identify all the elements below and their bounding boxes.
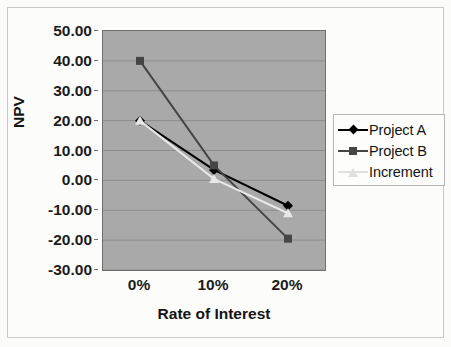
legend-label: Project B (369, 143, 427, 159)
y-axis-tick-label: 30.00 (53, 82, 92, 100)
x-axis-title: Rate of Interest (102, 305, 326, 323)
y-axis-tick-mark (94, 239, 98, 240)
square-icon (349, 147, 357, 155)
y-axis-tick-mark (94, 150, 98, 151)
data-point-triangle (283, 208, 293, 217)
y-axis-tick-mark (94, 90, 98, 91)
triangle-icon (348, 168, 358, 177)
plot-svg (103, 31, 325, 270)
y-axis-tick-label: 0.00 (62, 171, 92, 189)
x-axis-tick-label: 10% (197, 276, 228, 294)
y-axis-tick-label: 50.00 (53, 22, 92, 40)
chart-legend: Project AProject BIncrement (333, 114, 445, 186)
diamond-icon (349, 124, 359, 134)
data-point-square (284, 235, 292, 243)
y-axis-tick-labels: 50.0040.0030.0020.0010.000.00-10.00-20.0… (4, 30, 98, 271)
legend-key (337, 165, 369, 179)
legend-label: Project A (369, 122, 426, 138)
legend-label: Increment (369, 164, 433, 180)
legend-entry-increment[interactable]: Increment (337, 161, 441, 182)
y-axis-tick-mark (94, 60, 98, 61)
y-axis-tick-label: -10.00 (48, 201, 92, 219)
data-point-square (136, 57, 144, 65)
y-axis-tick-label: 40.00 (53, 52, 92, 70)
data-point-square (210, 161, 218, 169)
plot-area (102, 30, 326, 271)
x-axis-tick-label: 0% (128, 276, 150, 294)
npv-sensitivity-chart: NPV 50.0040.0030.0020.0010.000.00-10.00-… (0, 0, 451, 347)
legend-entry-project-b[interactable]: Project B (337, 140, 441, 161)
y-axis-tick-label: -20.00 (48, 231, 92, 249)
x-axis-tick-labels: 0%10%20% (102, 276, 326, 298)
legend-key (337, 123, 369, 137)
y-axis-tick-mark (94, 179, 98, 180)
y-axis-tick-label: -30.00 (48, 261, 92, 279)
y-axis-tick-mark (94, 209, 98, 210)
legend-entry-project-a[interactable]: Project A (337, 119, 441, 140)
y-axis-tick-mark (94, 30, 98, 31)
x-axis-tick-label: 20% (271, 276, 302, 294)
series-line-project-b (140, 61, 288, 239)
y-axis-tick-mark (94, 269, 98, 270)
y-axis-tick-mark (94, 120, 98, 121)
legend-key (337, 144, 369, 158)
y-axis-tick-label: 20.00 (53, 112, 92, 130)
y-axis-tick-label: 10.00 (53, 142, 92, 160)
